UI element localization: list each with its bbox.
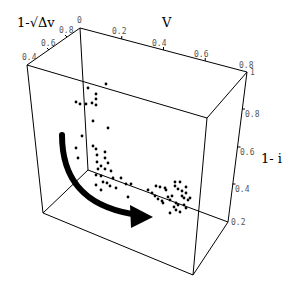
data-point (125, 183, 128, 186)
z-tick-4: 0.2 (231, 218, 246, 227)
box-edges (27, 28, 247, 275)
data-point (185, 207, 188, 210)
data-point (102, 181, 105, 184)
z-tick-2: 0.6 (240, 148, 255, 157)
x-tick-3: 0.6 (194, 50, 209, 59)
z-tick-0: 1 (250, 68, 255, 77)
data-point (100, 165, 103, 168)
data-point (87, 87, 90, 90)
data-point (127, 196, 130, 199)
data-point (151, 192, 154, 195)
data-point (155, 185, 158, 188)
data-point (95, 104, 98, 107)
data-point (104, 157, 107, 160)
data-point (95, 184, 98, 187)
scatter-points (75, 83, 192, 215)
data-point (85, 103, 88, 106)
data-point (189, 197, 192, 200)
edge-bottom-front (43, 213, 193, 275)
data-point (185, 186, 188, 189)
data-point (91, 102, 94, 105)
data-point (96, 161, 99, 164)
data-point (162, 202, 165, 205)
x-tick-2: 0.4 (152, 39, 167, 48)
data-point (92, 120, 95, 123)
data-point (100, 175, 103, 178)
edge-bottom-right (193, 222, 228, 275)
data-point (167, 196, 170, 199)
data-point (95, 93, 98, 96)
data-point (171, 195, 174, 198)
data-point (75, 101, 78, 104)
data-point (130, 183, 133, 186)
y-tick-0: 0.8 (59, 26, 74, 35)
data-point (104, 151, 107, 154)
data-point (181, 190, 184, 193)
data-point (181, 195, 184, 198)
data-point (164, 187, 167, 190)
data-point (96, 154, 99, 157)
data-point (177, 188, 180, 191)
z-tick-1: 0.8 (245, 110, 260, 119)
data-point (107, 127, 110, 130)
y-tick-1: 0.6 (41, 39, 56, 48)
data-point (120, 177, 123, 180)
data-point (105, 83, 108, 86)
data-point (185, 192, 188, 195)
axis-ticks (47, 35, 245, 184)
data-point (183, 204, 186, 207)
edge-top-right (207, 72, 247, 118)
data-point (175, 209, 178, 212)
y-tick-2: 0.4 (22, 53, 37, 62)
data-point (187, 199, 190, 202)
data-point (179, 181, 182, 184)
data-point (97, 168, 100, 171)
data-point (177, 204, 180, 207)
edge-bottom-back (88, 170, 228, 222)
data-point (157, 198, 160, 201)
data-point (179, 211, 182, 214)
z-axis-title: 1- i (261, 151, 282, 166)
data-point (100, 189, 103, 192)
edge-back-vertical (80, 28, 88, 170)
data-point (147, 189, 150, 192)
data-point (175, 202, 178, 205)
data-point (95, 148, 98, 151)
data-point (183, 197, 186, 200)
data-point (169, 212, 172, 215)
chart-3d-scatter: 0 0.2 0.4 0.6 0.8 0.8 0.6 0.4 1 0.8 0.6 … (0, 0, 293, 294)
data-point (115, 187, 118, 190)
data-point (92, 145, 95, 148)
data-point (75, 147, 78, 150)
z-tick-3: 0.4 (235, 185, 250, 194)
x-tick-0: 0 (77, 16, 82, 25)
y-axis-title: 1-√Δv (17, 15, 55, 30)
data-point (77, 157, 80, 160)
data-point (81, 135, 84, 138)
data-point (159, 186, 162, 189)
data-point (95, 98, 98, 101)
edge-top-front (27, 65, 207, 118)
data-point (174, 181, 177, 184)
data-point (169, 199, 172, 202)
data-point (112, 177, 115, 180)
data-point (79, 103, 82, 106)
edge-front-right-vertical (193, 118, 207, 275)
data-point (107, 162, 110, 165)
edge-front-left-vertical (27, 65, 43, 213)
data-point (174, 185, 177, 188)
data-point (110, 170, 113, 173)
y-tick-labels: 0.8 0.6 0.4 (22, 26, 74, 62)
data-point (95, 174, 98, 177)
data-point (109, 185, 112, 188)
data-point (104, 168, 107, 171)
z-tick-labels: 1 0.8 0.6 0.4 0.2 (231, 68, 260, 227)
data-point (106, 182, 109, 185)
x-tick-1: 0.2 (112, 27, 127, 36)
x-axis-title: V (161, 15, 172, 30)
data-point (173, 206, 176, 209)
data-point (154, 195, 157, 198)
